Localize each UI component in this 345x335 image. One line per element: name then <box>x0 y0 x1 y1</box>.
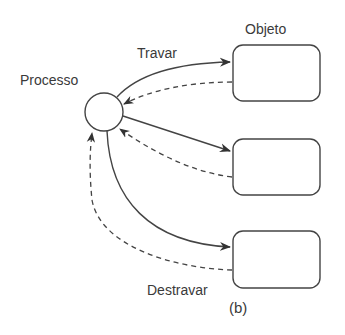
lock-edge-1 <box>117 62 230 97</box>
lock-edge-2 <box>123 116 230 151</box>
lock-edge-3 <box>107 131 230 247</box>
object-node-3 <box>233 231 320 288</box>
caption: (b) <box>229 299 247 316</box>
process-label: Processo <box>20 72 78 88</box>
lock-label: Travar <box>137 45 177 61</box>
object-node-1 <box>233 45 320 101</box>
process-node <box>85 93 123 131</box>
release-edge-2 <box>120 129 232 177</box>
release-edge-1 <box>124 82 232 104</box>
object-node-2 <box>233 139 320 195</box>
unlock-label: Destravar <box>147 282 208 298</box>
object-label: Objeto <box>245 21 286 37</box>
